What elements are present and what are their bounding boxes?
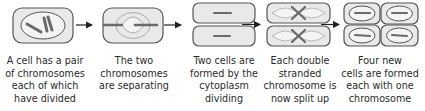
stage-4-caption: Each double stranded chromosome is now s… — [254, 55, 346, 105]
meiosis-diagram — [0, 0, 425, 50]
stage-2-caption: The two chromosomes are separating — [88, 55, 180, 93]
stage-1-cell — [13, 8, 73, 43]
stage-1-caption: A cell has a pair of chromosomes each of… — [0, 55, 91, 105]
stage-4-cells — [267, 3, 330, 46]
stage-2-cell — [103, 8, 163, 43]
stage-5-cells — [344, 3, 418, 46]
stage-5-caption: Four new cells are formed each with one … — [334, 55, 425, 105]
